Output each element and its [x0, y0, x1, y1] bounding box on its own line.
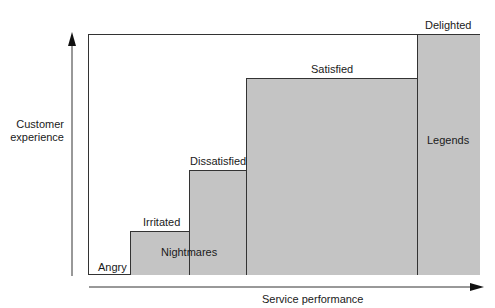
x-axis-arrow-icon: [470, 283, 484, 291]
y-axis-arrow-icon: [68, 32, 76, 46]
level-irritated-label: Irritated: [143, 216, 180, 228]
y-axis-label-line2: experience: [8, 131, 64, 144]
x-axis-label: Service performance: [262, 293, 364, 305]
step-satisfied: [246, 78, 418, 275]
step-dissatisfied: [189, 170, 247, 275]
diagram-frame: [88, 34, 480, 275]
y-axis-label-line1: Customer: [8, 118, 64, 131]
y-axis-label: Customer experience: [8, 118, 64, 144]
level-angry-label: Angry: [98, 261, 127, 273]
level-dissatisfied-label: Dissatisfied: [190, 155, 246, 167]
step-delighted: [417, 34, 480, 275]
zone-nightmares-label: Nightmares: [161, 246, 217, 258]
level-satisfied-label: Satisfied: [311, 63, 353, 75]
level-delighted-label: Delighted: [425, 19, 471, 31]
zone-legends-label: Legends: [427, 134, 469, 146]
